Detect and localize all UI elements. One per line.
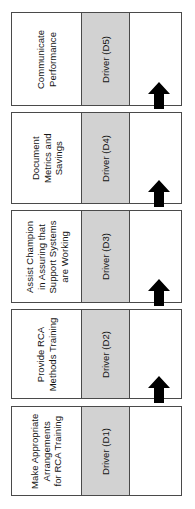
driver-label-d1: Driver (D1) <box>100 428 111 475</box>
driver-sequence-diagram: Communicate Performance Driver (D5) Docu… <box>0 0 195 509</box>
driver-label-d2: Driver (D2) <box>100 331 111 378</box>
driver-cell-d3: Driver (D3) <box>82 211 130 302</box>
driver-cell-d5: Driver (D5) <box>82 13 130 105</box>
task-label-d3: Assist Champion in Assuring that Support… <box>24 220 70 293</box>
flow-cell-d1 <box>130 407 181 495</box>
driver-label-d5: Driver (D5) <box>100 36 111 83</box>
arrow-d2-to-d3-icon <box>147 279 171 306</box>
task-label-d4: Document Metrics and Savings <box>29 133 64 183</box>
task-cell-d1: Make Appropriate Arrangements for RCA Tr… <box>12 407 82 495</box>
arrow-d4-to-d5-icon <box>147 82 171 109</box>
task-label-d5: Communicate Performance <box>35 29 58 88</box>
task-cell-d4: Document Metrics and Savings <box>12 113 82 203</box>
driver-label-d3: Driver (D3) <box>100 233 111 280</box>
task-cell-d3: Assist Champion in Assuring that Support… <box>12 211 82 302</box>
driver-cell-d2: Driver (D2) <box>82 310 130 398</box>
task-cell-d5: Communicate Performance <box>12 13 82 105</box>
task-cell-d2: Provide RCA Methods Training <box>12 310 82 398</box>
task-label-d1: Make Appropriate Arrangements for RCA Tr… <box>29 413 64 488</box>
driver-cell-d1: Driver (D1) <box>82 407 130 495</box>
driver-label-d4: Driver (D4) <box>100 135 111 182</box>
diagram-row-d1[interactable]: Make Appropriate Arrangements for RCA Tr… <box>11 406 182 496</box>
arrow-d3-to-d4-icon <box>147 180 171 207</box>
driver-cell-d4: Driver (D4) <box>82 113 130 203</box>
arrow-d1-to-d2-icon <box>147 376 171 403</box>
task-label-d2: Provide RCA Methods Training <box>35 317 58 391</box>
